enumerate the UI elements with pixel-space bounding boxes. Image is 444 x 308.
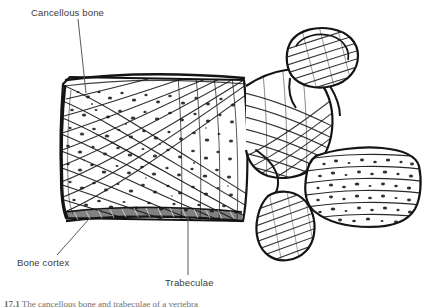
vertebra-drawing (57, 19, 428, 275)
label-bone-cortex: Bone cortex (17, 257, 69, 268)
figure-caption-text: The cancellous bone and trabeculae of a … (22, 299, 198, 308)
figure-caption-number: 17.1 (4, 299, 20, 308)
vertebral-body (58, 58, 252, 252)
figure-caption: 17.1 The cancellous bone and trabeculae … (4, 299, 198, 308)
figure-root: Cancellous bone Bone cortex Trabeculae 1… (0, 0, 444, 308)
label-trabeculae: Trabeculae (165, 277, 214, 288)
leader-bone-cortex (57, 219, 89, 255)
label-cancellous-bone: Cancellous bone (31, 7, 104, 18)
spinous-process (300, 147, 428, 232)
